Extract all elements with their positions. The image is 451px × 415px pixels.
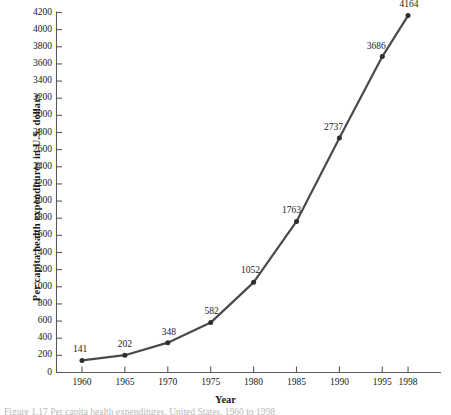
y-axis-tick-label: 200 — [18, 350, 52, 360]
y-axis-tick-label-wrap: 0 — [18, 368, 52, 378]
y-axis-tick-label-wrap: 200 — [18, 350, 52, 360]
x-axis-tick-label: 1960 — [62, 377, 102, 387]
y-axis-tick-label: 3600 — [18, 59, 52, 69]
data-point-value-label: 2737 — [311, 122, 355, 132]
y-axis-tick-label: 4000 — [18, 25, 52, 35]
y-axis-tick-label-wrap: 4200 — [18, 8, 52, 18]
y-axis-tick-label-wrap: 2600 — [18, 145, 52, 155]
y-axis-tick-label: 2800 — [18, 128, 52, 138]
y-axis-tick-label: 1400 — [18, 248, 52, 258]
y-axis-tick-label: 600 — [18, 316, 52, 326]
y-axis-tick-label-wrap: 2200 — [18, 179, 52, 189]
data-point-value-label: 348 — [147, 327, 191, 337]
y-axis-tick-label-wrap: 1400 — [18, 248, 52, 258]
x-axis-tick-label: 1970 — [148, 377, 188, 387]
x-axis-tick-label: 1985 — [277, 377, 317, 387]
y-axis-tick-label: 4200 — [18, 8, 52, 18]
y-axis-tick-label: 1600 — [18, 230, 52, 240]
data-point-marker — [165, 340, 170, 345]
y-axis-tick-label-wrap: 1000 — [18, 282, 52, 292]
y-axis-tick-label-wrap: 2000 — [18, 196, 52, 206]
y-axis-tick-label: 1800 — [18, 213, 52, 223]
y-axis-tick-label-wrap: 3800 — [18, 42, 52, 52]
y-axis-tick-label-wrap: 2400 — [18, 162, 52, 172]
y-axis-tick-label: 2600 — [18, 145, 52, 155]
y-axis-tick-label: 0 — [18, 368, 52, 378]
data-point-marker — [122, 353, 127, 358]
data-point-marker — [80, 358, 85, 363]
figure-health-expenditures: Per capita health expenditures in U.S. d… — [0, 0, 451, 415]
series-line — [82, 16, 408, 361]
y-axis-tick-label-wrap: 1600 — [18, 230, 52, 240]
y-axis-tick-label-wrap: 400 — [18, 333, 52, 343]
y-axis-tick-label: 1000 — [18, 282, 52, 292]
y-axis-tick-label-wrap: 3600 — [18, 59, 52, 69]
y-axis-tick-label: 3000 — [18, 110, 52, 120]
y-axis-tick-label: 2400 — [18, 162, 52, 172]
y-axis-tick-label-wrap: 3200 — [18, 93, 52, 103]
y-axis-tick-label-wrap: 4000 — [18, 25, 52, 35]
y-axis-tick-label-wrap: 600 — [18, 316, 52, 326]
data-point-value-label: 4164 — [387, 0, 431, 9]
y-axis-tick-label-wrap: 1800 — [18, 213, 52, 223]
y-axis-tick-label: 400 — [18, 333, 52, 343]
data-point-value-label: 3686 — [354, 41, 398, 51]
x-axis-tick-label: 1965 — [105, 377, 145, 387]
data-point-value-label: 1052 — [229, 265, 273, 275]
x-axis-tick-label: 1975 — [191, 377, 231, 387]
data-point-value-label: 1763 — [270, 205, 314, 215]
data-point-marker — [380, 54, 385, 59]
data-point-marker — [337, 135, 342, 140]
data-point-value-label: 582 — [190, 306, 234, 316]
y-axis-tick-label: 3400 — [18, 76, 52, 86]
y-axis-tick-label: 2000 — [18, 196, 52, 206]
y-axis-tick-label: 1200 — [18, 265, 52, 275]
y-axis-tick-label-wrap: 1200 — [18, 265, 52, 275]
x-axis-tick-label: 1980 — [234, 377, 274, 387]
y-axis-tick-label: 2200 — [18, 179, 52, 189]
data-point-marker — [208, 320, 213, 325]
y-axis-tick-label-wrap: 3400 — [18, 76, 52, 86]
y-axis-tick-label-wrap: 2800 — [18, 128, 52, 138]
y-axis-tick-label: 3800 — [18, 42, 52, 52]
data-point-marker — [406, 13, 411, 18]
data-point-marker — [251, 280, 256, 285]
x-axis-tick-label: 1990 — [319, 377, 359, 387]
y-axis-tick-label: 3200 — [18, 93, 52, 103]
data-point-value-label: 202 — [103, 339, 147, 349]
y-axis-tick-label-wrap: 800 — [18, 299, 52, 309]
y-axis-tick-label-wrap: 3000 — [18, 110, 52, 120]
figure-caption: Figure 1.17 Per capita health expenditur… — [4, 407, 451, 415]
x-axis-title: Year — [0, 394, 451, 405]
data-point-marker — [294, 219, 299, 224]
data-point-value-label: 141 — [58, 344, 102, 354]
x-axis-tick-label: 1998 — [388, 377, 428, 387]
y-axis-tick-label: 800 — [18, 299, 52, 309]
